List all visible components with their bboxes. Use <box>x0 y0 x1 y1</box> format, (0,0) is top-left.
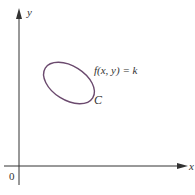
y-axis-arrow-icon <box>16 8 22 19</box>
x-axis-label: x <box>188 160 194 172</box>
diagram-svg: y x 0 f(x, y) = k C <box>0 0 195 195</box>
curve-equation-label: f(x, y) = k <box>94 64 139 77</box>
level-curve-diagram: y x 0 f(x, y) = k C <box>0 0 195 195</box>
x-axis-arrow-icon <box>177 163 188 169</box>
origin-label: 0 <box>9 170 15 182</box>
curve-name-label: C <box>94 93 103 107</box>
y-axis-label: y <box>26 6 32 18</box>
level-curve-ellipse <box>36 54 102 113</box>
